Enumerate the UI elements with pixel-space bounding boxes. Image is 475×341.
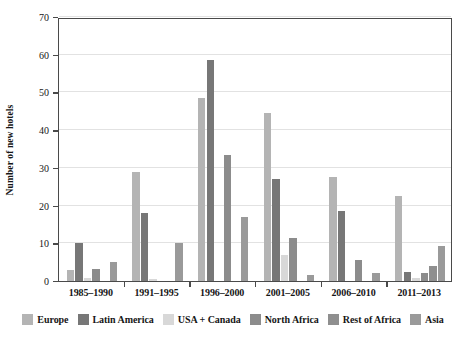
y-tick-10: 10 [0, 238, 58, 250]
legend-swatch-icon [328, 314, 339, 325]
legend-label: Asia [425, 314, 444, 325]
bar [395, 196, 402, 281]
legend-swatch-icon [78, 314, 89, 325]
x-tick-mark [189, 282, 190, 287]
bar [224, 155, 231, 281]
bar [429, 266, 436, 281]
chart-legend: EuropeLatin AmericaUSA + CanadaNorth Afr… [0, 308, 475, 330]
bar [84, 278, 91, 281]
y-tick-70: 70 [0, 12, 58, 24]
y-tick-label: 0 [44, 276, 49, 288]
x-axis-label-5: 2011–2013 [397, 287, 441, 298]
bar [175, 243, 182, 281]
x-axis-label-1: 1991–1995 [134, 287, 178, 298]
bar [307, 275, 314, 281]
y-tick-30: 30 [0, 163, 58, 175]
x-tick-mark [321, 282, 322, 287]
bars-layer [59, 19, 451, 281]
bar [67, 270, 74, 281]
bar [264, 113, 271, 281]
y-tick-label: 10 [39, 238, 49, 250]
bar-group [322, 19, 388, 281]
legend-label: USA + Canada [178, 314, 241, 325]
x-axis-label-3: 2001–2005 [266, 287, 310, 298]
x-axis-label-4: 2006–2010 [331, 287, 375, 298]
bar [92, 269, 99, 281]
legend-item-north-africa[interactable]: North Africa [250, 314, 319, 325]
bar [110, 262, 117, 281]
gridline-70 [59, 16, 451, 17]
bar [75, 243, 82, 281]
bar [289, 238, 296, 281]
x-axis: 1985–19901991–19951996–20002001–20052006… [58, 282, 452, 304]
legend-item-europe[interactable]: Europe [22, 314, 68, 325]
legend-item-rest-of-africa[interactable]: Rest of Africa [328, 314, 401, 325]
bar-group [190, 19, 256, 281]
bar [207, 60, 214, 281]
legend-item-asia[interactable]: Asia [410, 314, 444, 325]
bar [241, 217, 248, 281]
legend-swatch-icon [163, 314, 174, 325]
y-tick-50: 50 [0, 87, 58, 99]
bar [141, 213, 148, 281]
bar [281, 255, 288, 281]
y-tick-label: 60 [39, 50, 49, 62]
y-tick-label: 70 [39, 12, 49, 24]
bar [372, 273, 379, 281]
legend-label: Latin America [93, 314, 154, 325]
legend-item-usa-canada[interactable]: USA + Canada [163, 314, 241, 325]
legend-swatch-icon [22, 314, 33, 325]
legend-item-latin-america[interactable]: Latin America [78, 314, 154, 325]
y-tick-20: 20 [0, 201, 58, 213]
bar [438, 246, 445, 281]
bar [329, 177, 336, 281]
y-tick-40: 40 [0, 125, 58, 137]
legend-swatch-icon [250, 314, 261, 325]
x-tick-mark [124, 282, 125, 287]
y-tick-label: 20 [39, 201, 49, 213]
bar-group [59, 19, 125, 281]
legend-swatch-icon [410, 314, 421, 325]
bar [198, 98, 205, 281]
bar-group [387, 19, 453, 281]
bar-group [125, 19, 191, 281]
bar [404, 272, 411, 281]
y-tick-label: 40 [39, 125, 49, 137]
legend-label: Europe [37, 314, 68, 325]
legend-label: Rest of Africa [343, 314, 401, 325]
y-tick-label: 30 [39, 163, 49, 175]
bar [421, 273, 428, 281]
bar-chart: Number of new hotels 010203040506070 198… [0, 0, 475, 341]
x-tick-mark [386, 282, 387, 287]
bar [412, 278, 419, 281]
legend-label: North Africa [265, 314, 319, 325]
plot-area [58, 18, 452, 282]
x-axis-label-2: 1996–2000 [200, 287, 244, 298]
x-tick-mark [255, 282, 256, 287]
bar-group [256, 19, 322, 281]
bar [272, 179, 279, 281]
y-tick-60: 60 [0, 50, 58, 62]
bar [149, 279, 156, 281]
x-axis-label-0: 1985–1990 [69, 287, 113, 298]
bar [132, 172, 139, 281]
y-tick-label: 50 [39, 87, 49, 99]
y-axis-ticks: 010203040506070 [0, 18, 58, 282]
bar [355, 260, 362, 281]
y-tick-0: 0 [0, 276, 58, 288]
bar [338, 211, 345, 281]
